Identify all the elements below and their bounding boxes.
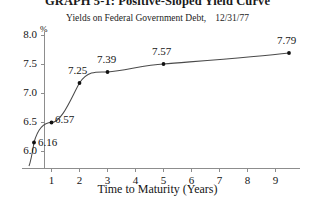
data-point-value-label: 6.57	[55, 113, 74, 125]
x-axis-title: Time to Maturity (Years)	[0, 182, 315, 197]
data-point-marker	[162, 62, 166, 66]
data-point-marker	[106, 70, 110, 74]
data-point-marker	[287, 51, 291, 55]
y-axis-label-7-5: 7.5	[13, 57, 37, 69]
data-point-value-label: 7.79	[277, 34, 296, 46]
data-point-marker	[78, 81, 82, 85]
x-axis-ticks	[52, 169, 276, 173]
y-axis-label-6-5: 6.5	[13, 115, 37, 127]
data-point-value-label: 7.25	[68, 64, 87, 76]
chart-figure: GRAPH 5-1: Positive-Sloped Yield Curve Y…	[0, 0, 315, 202]
y-axis-label-7-0: 7.0	[13, 86, 37, 98]
data-point-marker	[50, 121, 54, 125]
data-point-value-label: 7.39	[97, 53, 116, 65]
y-axis-ticks	[41, 36, 45, 152]
data-point-value-label: 7.57	[152, 45, 171, 57]
y-axis-label-8-0: 8.0	[13, 28, 37, 40]
y-axis-unit-label: %	[40, 24, 48, 34]
data-point-value-label: 6.16	[38, 136, 57, 148]
y-axis-label-6-0: 6.0	[13, 144, 37, 156]
